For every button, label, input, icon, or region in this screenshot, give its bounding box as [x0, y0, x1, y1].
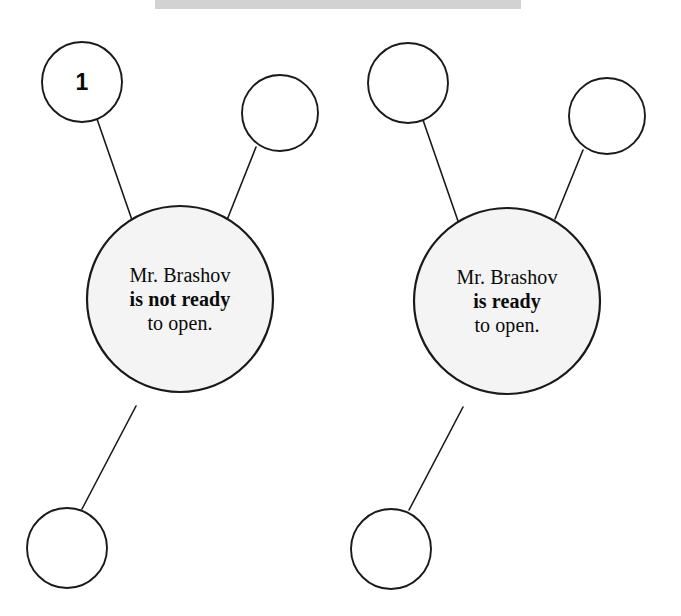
satellite-circle-right-2[interactable] [569, 78, 645, 154]
connector-line-2 [555, 150, 583, 219]
bubble-text-line-1: Mr. Brashov [414, 265, 600, 289]
connector-line-1 [97, 119, 132, 220]
bubble-text-line-3: to open. [414, 313, 600, 337]
center-bubble-text-left: Mr. Brashovis not readyto open. [87, 263, 273, 336]
satellite-circle-right-3[interactable] [351, 509, 431, 589]
satellite-number-label: 1 [42, 69, 122, 96]
center-bubble-text-right: Mr. Brashovis readyto open. [414, 265, 600, 338]
worksheet-page: Mr. Brashovis not readyto open.1Mr. Bras… [0, 0, 681, 616]
satellite-circle-right-1[interactable] [368, 43, 448, 123]
bubble-text-line-2: is ready [414, 289, 600, 313]
connector-line-3 [409, 407, 463, 510]
bubble-text-line-1: Mr. Brashov [87, 263, 273, 287]
satellite-circle-left-2[interactable] [242, 75, 318, 151]
satellite-circle-left-3[interactable] [27, 508, 107, 588]
connector-line-2 [227, 147, 256, 220]
bubble-text-line-3: to open. [87, 311, 273, 335]
connector-line-1 [423, 120, 458, 221]
bubble-text-line-2: is not ready [87, 287, 273, 311]
connector-line-3 [82, 406, 136, 509]
